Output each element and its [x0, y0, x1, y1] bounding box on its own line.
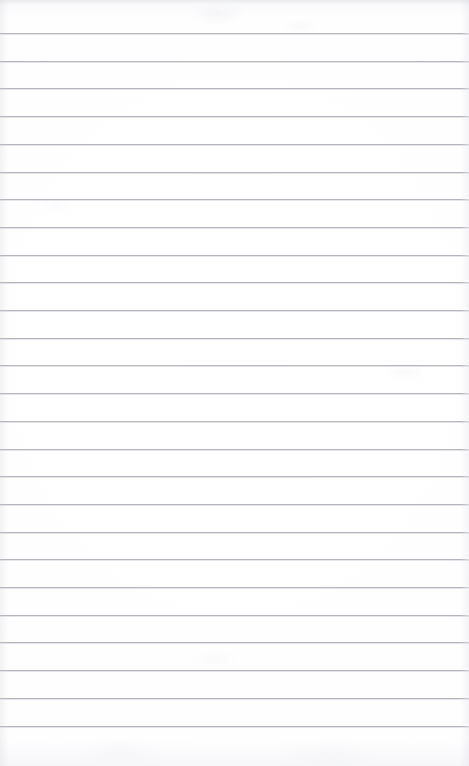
rule-line	[0, 310, 469, 311]
rule-line	[0, 559, 469, 560]
rule-line	[0, 365, 469, 366]
rule-line	[0, 144, 469, 145]
rule-line	[0, 199, 469, 200]
notepad-page	[0, 0, 469, 766]
rule-line	[0, 61, 469, 62]
rule-line	[0, 476, 469, 477]
rule-line	[0, 282, 469, 283]
rule-line	[0, 698, 469, 699]
rule-line	[0, 421, 469, 422]
rule-line	[0, 504, 469, 505]
rule-line	[0, 393, 469, 394]
rule-line	[0, 532, 469, 533]
rule-line	[0, 615, 469, 616]
rule-line	[0, 338, 469, 339]
rule-line	[0, 88, 469, 89]
rule-line	[0, 670, 469, 671]
rule-line	[0, 587, 469, 588]
rule-line	[0, 449, 469, 450]
rule-line	[0, 255, 469, 256]
rule-line	[0, 642, 469, 643]
ruled-lines-group	[0, 0, 469, 766]
rule-line	[0, 172, 469, 173]
rule-line	[0, 726, 469, 727]
rule-line	[0, 227, 469, 228]
rule-line	[0, 33, 469, 34]
rule-line	[0, 116, 469, 117]
